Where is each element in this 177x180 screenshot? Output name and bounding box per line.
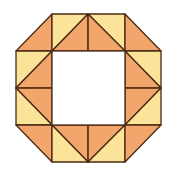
center-hole — [52, 51, 125, 125]
octagon-quilt-diagram — [0, 0, 177, 180]
tile-top-corner-left — [16, 14, 52, 51]
tile-top-corner-right — [125, 14, 161, 51]
tile-bottom-corner-left — [16, 125, 52, 162]
tile-bottom-corner-right — [125, 125, 161, 162]
